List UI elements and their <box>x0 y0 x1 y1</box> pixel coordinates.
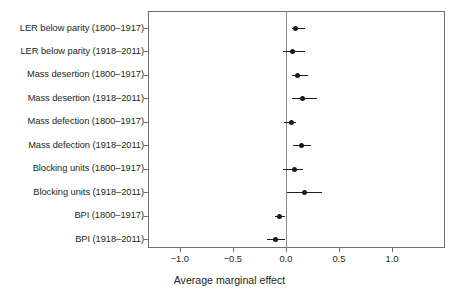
y-axis-tick <box>144 51 148 52</box>
x-axis-tick-label: −0.5 <box>213 254 253 265</box>
y-axis-tick <box>144 239 148 240</box>
estimate-point <box>293 26 298 31</box>
category-label: Mass desertion (1918–2011) <box>28 93 144 103</box>
y-axis-tick <box>144 98 148 99</box>
x-axis-tick-label: 0.5 <box>319 254 359 265</box>
x-axis-title: Average marginal effect <box>0 274 459 286</box>
plot-frame <box>148 11 445 248</box>
estimate-point <box>289 120 294 125</box>
category-label: Blocking units (1918–2011) <box>33 187 144 197</box>
y-axis-tick <box>144 122 148 123</box>
category-label: Blocking units (1800–1917) <box>33 163 144 173</box>
category-label: LER below parity (1918–2011) <box>21 46 145 56</box>
x-axis-tick-label: 0.0 <box>266 254 306 265</box>
y-axis-tick <box>144 28 148 29</box>
zero-reference-line <box>286 11 287 248</box>
x-axis-tick <box>180 248 181 252</box>
category-label: Mass defection (1800–1917) <box>27 116 144 126</box>
category-label: BPI (1918–2011) <box>75 234 144 244</box>
x-axis-tick <box>286 248 287 252</box>
estimate-point <box>292 167 297 172</box>
category-label-column: LER below parity (1800–1917)LER below pa… <box>0 0 144 260</box>
x-axis-tick <box>392 248 393 252</box>
forest-plot: LER below parity (1800–1917)LER below pa… <box>0 0 459 301</box>
y-axis-tick <box>144 75 148 76</box>
estimate-point <box>273 237 278 242</box>
category-label: Mass desertion (1800–1917) <box>27 69 144 79</box>
x-axis-tick-label: 1.0 <box>372 254 412 265</box>
category-label: BPI (1800–1917) <box>74 210 144 220</box>
y-axis-tick <box>144 169 148 170</box>
category-label: Mass defection (1918–2011) <box>28 140 144 150</box>
y-axis-tick <box>144 145 148 146</box>
x-axis-tick-label: −1.0 <box>160 254 200 265</box>
y-axis-tick <box>144 192 148 193</box>
y-axis-tick <box>144 216 148 217</box>
estimate-point <box>277 214 282 219</box>
x-axis-tick <box>339 248 340 252</box>
x-axis-tick <box>233 248 234 252</box>
estimate-point <box>295 73 300 78</box>
category-label: LER below parity (1800–1917) <box>20 23 144 33</box>
